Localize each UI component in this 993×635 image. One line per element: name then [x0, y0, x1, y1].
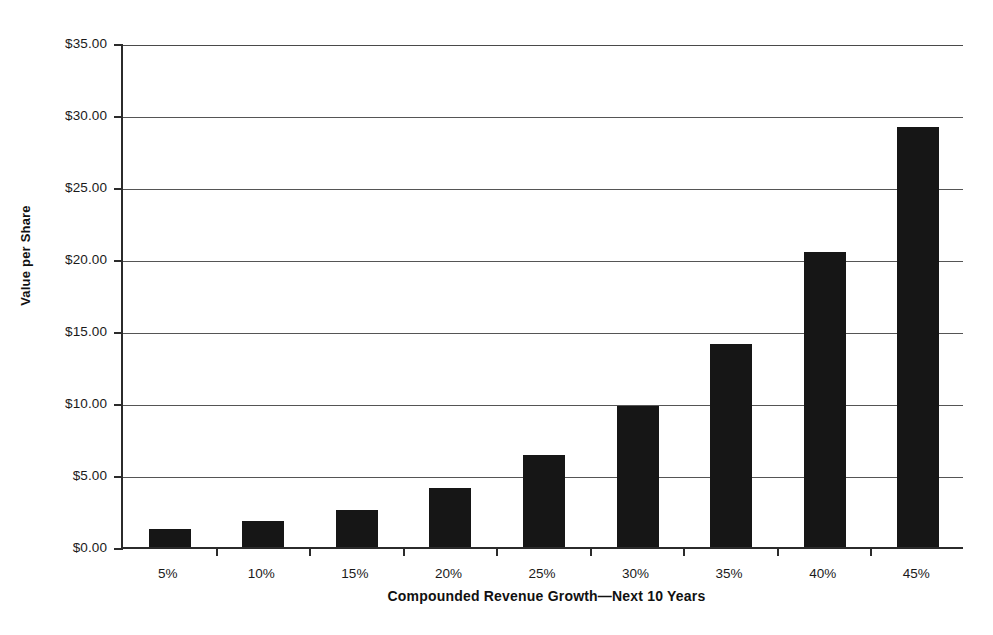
- y-axis-tick-label: $0.00: [73, 540, 107, 555]
- x-axis-tick-label: 25%: [502, 566, 582, 581]
- bar: [336, 510, 378, 547]
- y-axis-tick: [114, 548, 123, 550]
- bar: [804, 252, 846, 547]
- x-axis-tick-label: 5%: [128, 566, 208, 581]
- x-axis-tick-label: 15%: [315, 566, 395, 581]
- y-axis-tick: [114, 476, 123, 478]
- x-axis-tick: [870, 547, 872, 556]
- x-axis-tick: [309, 547, 311, 556]
- x-axis-tick-label: 20%: [408, 566, 488, 581]
- x-axis-title: Compounded Revenue Growth—Next 10 Years: [0, 588, 993, 604]
- y-axis-tick-label: $20.00: [65, 252, 107, 267]
- x-axis-tick: [403, 547, 405, 556]
- y-axis-tick-label: $30.00: [65, 108, 107, 123]
- y-axis-tick: [114, 188, 123, 190]
- x-axis-tick: [216, 547, 218, 556]
- bar: [897, 127, 939, 547]
- bar: [523, 455, 565, 547]
- x-axis-tick: [777, 547, 779, 556]
- bar: [149, 529, 191, 547]
- y-axis-tick: [114, 260, 123, 262]
- y-axis-tick-label: $25.00: [65, 180, 107, 195]
- bar: [242, 521, 284, 547]
- y-axis-tick-label: $15.00: [65, 324, 107, 339]
- x-axis-tick: [496, 547, 498, 556]
- gridline: [123, 45, 963, 46]
- y-axis-tick: [114, 44, 123, 46]
- gridline: [123, 189, 963, 190]
- x-axis-tick-label: 45%: [876, 566, 956, 581]
- x-axis-tick-label: 10%: [221, 566, 301, 581]
- bar: [710, 344, 752, 547]
- x-axis-tick: [590, 547, 592, 556]
- x-axis-tick-label: 35%: [689, 566, 769, 581]
- x-axis-tick-label: 40%: [783, 566, 863, 581]
- y-axis-tick: [114, 404, 123, 406]
- x-axis-tick: [683, 547, 685, 556]
- y-axis-tick: [114, 332, 123, 334]
- bar: [617, 406, 659, 547]
- chart-page: Value per Share $0.00$5.00$10.00$15.00$2…: [0, 0, 993, 635]
- y-axis-tick: [114, 116, 123, 118]
- y-axis-title: Value per Share: [18, 156, 33, 356]
- gridline: [123, 117, 963, 118]
- y-axis-tick-label: $35.00: [65, 36, 107, 51]
- bar: [429, 488, 471, 547]
- plot-area: [121, 45, 963, 549]
- y-axis-tick-label: $10.00: [65, 396, 107, 411]
- y-axis-tick-label: $5.00: [73, 468, 107, 483]
- x-axis-tick-label: 30%: [596, 566, 676, 581]
